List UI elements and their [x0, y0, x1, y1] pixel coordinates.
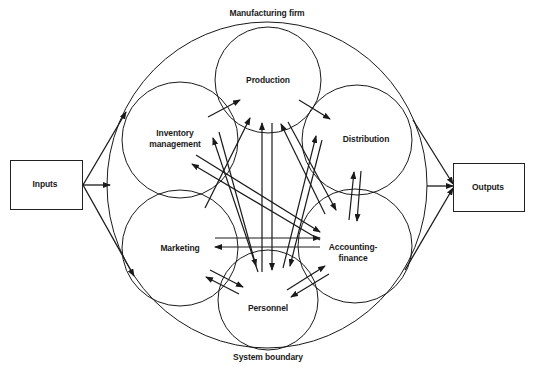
production-label: Production [246, 75, 290, 86]
inventory-label-line1: Inventory [156, 128, 193, 138]
inventory-label-line2: management [149, 139, 200, 149]
inputs-label: Inputs [33, 179, 58, 190]
system-boundary-circle [107, 22, 427, 348]
personnel-label: Personnel [248, 303, 288, 314]
accounting-label-line1: Accounting- [329, 242, 377, 252]
title-system-boundary: System boundary [233, 352, 303, 363]
marketing-label: Marketing [160, 243, 199, 254]
outputs-label: Outputs [472, 182, 504, 193]
accounting-label: Accounting- finance [329, 242, 377, 264]
accounting-label-line2: finance [338, 253, 367, 263]
inventory-label: Inventory management [149, 128, 200, 150]
personnel-circle [218, 250, 318, 350]
distribution-label: Distribution [343, 134, 390, 145]
title-manufacturing-firm: Manufacturing firm [229, 8, 304, 19]
